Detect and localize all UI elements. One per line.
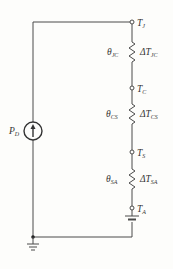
node-tj-icon (130, 20, 134, 24)
label-tj: TJ (137, 18, 145, 29)
label-ts: TS (137, 148, 145, 159)
label-pd: PD (8, 126, 20, 137)
resistor-jc-icon (129, 42, 135, 62)
label-tc: TC (137, 84, 147, 95)
node-ta-icon (130, 206, 134, 210)
resistor-sa-icon (129, 169, 135, 189)
label-theta-cs: θCS (106, 109, 118, 120)
label-delta-tcs: ΔTCS (139, 109, 158, 120)
current-arrow-head-icon (31, 124, 36, 129)
thermal-circuit-diagram: TJ TC TS TA θJC ΔTJC θCS ΔTCS θSA ΔTSA P… (0, 0, 173, 269)
label-theta-sa: θSA (106, 174, 118, 185)
label-theta-jc: θJC (107, 47, 119, 58)
label-delta-tjc: ΔTJC (139, 47, 159, 58)
node-ts-icon (130, 150, 134, 154)
label-delta-tsa: ΔTSA (139, 174, 158, 185)
node-tc-icon (130, 86, 134, 90)
label-ta: TA (137, 204, 146, 215)
resistor-cs-icon (129, 104, 135, 124)
